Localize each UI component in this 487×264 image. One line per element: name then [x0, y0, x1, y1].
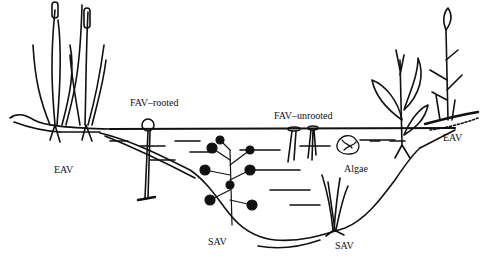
- label-sav-left: SAV: [208, 236, 227, 247]
- left-bank: [10, 115, 110, 129]
- algae-clump: [337, 136, 380, 154]
- eav-cattails-left: [33, 2, 106, 142]
- label-sav-right: SAV: [335, 240, 354, 251]
- label-fav-unrooted: FAV–unrooted: [274, 110, 333, 121]
- sav-plant-right: [322, 175, 348, 236]
- fav-unrooted-plants: [288, 126, 318, 162]
- eav-tall-plant-right: [430, 8, 462, 120]
- pond-illustration: [0, 0, 487, 264]
- water-surface-line: [110, 128, 455, 129]
- label-eav-right: EAV: [443, 132, 462, 143]
- label-fav-rooted: FAV–rooted: [130, 97, 179, 108]
- label-eav-left: EAV: [54, 164, 73, 175]
- label-algae: Algae: [344, 163, 368, 174]
- pond-cross-section-diagram: EAV FAV–rooted FAV–unrooted Algae SAV SA…: [0, 0, 487, 264]
